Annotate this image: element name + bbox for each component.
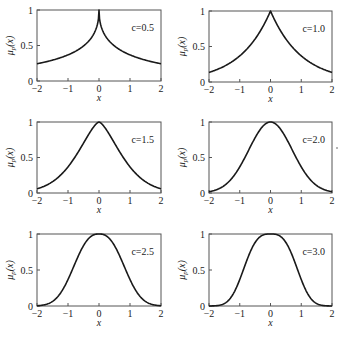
membership-curve bbox=[209, 11, 332, 72]
x-tick-label: −1 bbox=[63, 308, 74, 319]
x-tick-label: −1 bbox=[234, 84, 245, 95]
y-tick-label: 0 bbox=[200, 77, 205, 88]
x-tick-label: −1 bbox=[63, 83, 74, 94]
y-tick-label: 1 bbox=[200, 6, 205, 17]
x-tick-label: −2 bbox=[204, 195, 215, 206]
y-tick-label: 0.5 bbox=[21, 265, 34, 276]
membership-curve bbox=[37, 122, 161, 189]
y-tick-label: 0 bbox=[28, 76, 33, 87]
y-tick-label: 0.5 bbox=[21, 40, 34, 51]
y-tick-label: 0.5 bbox=[193, 41, 206, 52]
membership-curve bbox=[209, 122, 332, 192]
c-parameter-annotation: c=0.5 bbox=[131, 22, 154, 33]
y-tick-label: 0 bbox=[28, 188, 33, 199]
y-tick-label: 0.5 bbox=[193, 152, 206, 163]
x-axis-label: x bbox=[267, 204, 273, 215]
y-tick-label: 0 bbox=[200, 188, 205, 199]
y-tick-label: 1 bbox=[28, 117, 33, 128]
plot-panel: −2−101200.51xμp(x)c=3.0 bbox=[176, 229, 335, 329]
x-tick-label: 2 bbox=[159, 83, 164, 94]
y-tick-label: 1 bbox=[28, 229, 33, 240]
y-tick-label: 1 bbox=[200, 117, 205, 128]
y-axis-label: μp(x) bbox=[176, 260, 189, 281]
plot-panel: −2−101200.51xμp(x)c=2.5 bbox=[4, 229, 164, 329]
membership-curve bbox=[209, 234, 332, 306]
c-parameter-annotation: c=3.0 bbox=[302, 246, 325, 257]
y-axis-label: μp(x) bbox=[4, 147, 17, 168]
x-tick-label: 1 bbox=[299, 195, 304, 206]
x-tick-label: 1 bbox=[128, 195, 133, 206]
plot-panel: −2−101200.51xμp(x)c=1.5 bbox=[4, 117, 164, 216]
plot-frame bbox=[37, 234, 161, 306]
y-tick-label: 1 bbox=[200, 229, 205, 240]
y-axis-label: μp(x) bbox=[176, 147, 189, 168]
stray-mark bbox=[336, 147, 338, 149]
y-axis-label: μp(x) bbox=[176, 36, 189, 57]
x-tick-label: 2 bbox=[330, 84, 335, 95]
x-tick-label: 1 bbox=[299, 308, 304, 319]
plot-panel: −2−101200.51xμp(x)c=2.0 bbox=[176, 117, 335, 216]
x-tick-label: 1 bbox=[128, 308, 133, 319]
x-tick-label: 1 bbox=[299, 84, 304, 95]
y-tick-label: 0.5 bbox=[193, 265, 206, 276]
x-tick-label: −2 bbox=[204, 308, 215, 319]
x-tick-label: −2 bbox=[32, 195, 43, 206]
plot-frame bbox=[209, 11, 332, 82]
x-axis-label: x bbox=[96, 317, 102, 328]
c-parameter-annotation: c=2.0 bbox=[302, 134, 325, 145]
x-axis-label: x bbox=[96, 92, 102, 103]
plot-panel: −2−101200.51xμp(x)c=1.0 bbox=[176, 6, 335, 105]
x-tick-label: −1 bbox=[234, 195, 245, 206]
y-axis-label: μp(x) bbox=[4, 35, 17, 56]
plot-frame bbox=[209, 234, 332, 306]
c-parameter-annotation: c=2.5 bbox=[131, 246, 154, 257]
y-tick-label: 0 bbox=[28, 301, 33, 312]
plot-panel: −2−101200.51xμp(x)c=0.5 bbox=[4, 5, 164, 104]
figure-grid: −2−101200.51xμp(x)c=0.5−2−101200.51xμp(x… bbox=[0, 0, 342, 340]
y-tick-label: 1 bbox=[28, 5, 33, 16]
membership-curve bbox=[37, 10, 161, 64]
x-axis-label: x bbox=[96, 204, 102, 215]
plot-frame bbox=[37, 122, 161, 193]
c-parameter-annotation: c=1.0 bbox=[302, 23, 325, 34]
membership-curve bbox=[37, 234, 161, 306]
x-tick-label: 1 bbox=[128, 83, 133, 94]
x-tick-label: 2 bbox=[330, 308, 335, 319]
x-axis-label: x bbox=[267, 317, 273, 328]
x-tick-label: −1 bbox=[63, 195, 74, 206]
plot-frame bbox=[37, 10, 161, 81]
x-tick-label: 2 bbox=[159, 195, 164, 206]
x-tick-label: 2 bbox=[159, 308, 164, 319]
y-tick-label: 0 bbox=[200, 301, 205, 312]
x-tick-label: −2 bbox=[32, 83, 43, 94]
x-axis-label: x bbox=[267, 93, 273, 104]
x-tick-label: −1 bbox=[234, 308, 245, 319]
x-tick-label: 2 bbox=[330, 195, 335, 206]
x-tick-label: −2 bbox=[204, 84, 215, 95]
c-parameter-annotation: c=1.5 bbox=[131, 134, 154, 145]
y-axis-label: μp(x) bbox=[4, 260, 17, 281]
x-tick-label: −2 bbox=[32, 308, 43, 319]
y-tick-label: 0.5 bbox=[21, 152, 34, 163]
